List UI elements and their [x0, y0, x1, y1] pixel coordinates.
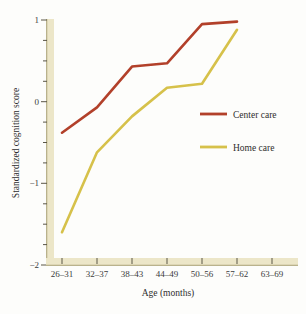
x-tick-label-5: 57–62 — [226, 269, 249, 279]
x-tick-label-3: 44–49 — [156, 269, 179, 279]
y-tick-label-1: 1 — [35, 15, 40, 25]
x-axis-edge — [46, 265, 298, 266]
x-axis — [46, 258, 298, 266]
line-chart-svg: 1 0 −1 −2 26–31 32–37 38–43 44–49 50–56 … — [0, 0, 306, 314]
x-axis-title: Age (months) — [142, 288, 195, 299]
chart-background — [0, 0, 306, 314]
x-tick-label-4: 50–56 — [191, 269, 214, 279]
y-tick-label-0: 0 — [35, 97, 40, 107]
y-tick-label-neg1: −1 — [29, 178, 39, 188]
x-tick-label-6: 63–69 — [261, 269, 284, 279]
x-tick-label-0: 26–31 — [51, 269, 74, 279]
x-tick-label-1: 32–37 — [86, 269, 109, 279]
legend-label-center-care: Center care — [233, 110, 277, 120]
legend-label-home-care: Home care — [233, 143, 274, 153]
x-tick-label-2: 38–43 — [121, 269, 144, 279]
y-tick-label-neg2: −2 — [29, 260, 39, 270]
chart-figure: 1 0 −1 −2 26–31 32–37 38–43 44–49 50–56 … — [0, 0, 306, 314]
y-axis-title: Standardized cognition score — [11, 88, 21, 198]
